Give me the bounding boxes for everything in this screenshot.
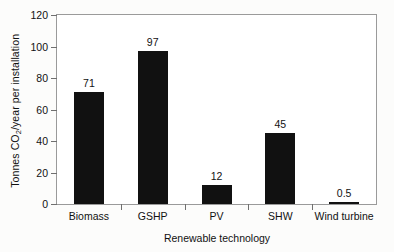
- bar-value-label: 12: [211, 170, 223, 182]
- x-axis-category-label: GSHP: [138, 210, 168, 222]
- x-axis-category-label: PV: [209, 210, 223, 222]
- y-axis-title-tail: /year per installation: [9, 34, 21, 130]
- y-axis-tick-label: 120: [30, 9, 48, 21]
- y-axis-title: Tonnes CO2/year per installation: [9, 11, 23, 211]
- bar: [202, 185, 232, 204]
- bar-chart-figure: Tonnes CO2/year per installation 0204060…: [0, 0, 394, 252]
- y-axis-title-main: Tonnes CO: [9, 134, 21, 187]
- y-axis-tick-label: 80: [36, 72, 48, 84]
- bar-value-label: 71: [83, 77, 95, 89]
- x-axis-tick: [248, 204, 249, 210]
- y-axis-tick: [51, 141, 57, 142]
- bar-value-label: 0.5: [337, 187, 352, 199]
- plot-area: 020406080100120719712450.5: [56, 14, 377, 205]
- bar-value-label: 97: [147, 36, 159, 48]
- x-axis-tick: [185, 204, 186, 210]
- x-axis-category-label: Biomass: [69, 210, 109, 222]
- x-axis-tick: [121, 204, 122, 210]
- y-axis-tick-label: 0: [42, 198, 48, 210]
- x-axis-category-label: SHW: [268, 210, 293, 222]
- y-axis-tick-label: 40: [36, 135, 48, 147]
- x-axis-tick: [312, 204, 313, 210]
- y-axis-title-subscript: 2: [14, 130, 23, 134]
- y-axis-tick-label: 60: [36, 104, 48, 116]
- y-axis-tick: [51, 15, 57, 16]
- y-axis-tick-label: 20: [36, 167, 48, 179]
- x-axis-category-label: Wind turbine: [315, 210, 374, 222]
- y-axis-tick: [51, 110, 57, 111]
- bar: [138, 51, 168, 204]
- y-axis-tick: [51, 173, 57, 174]
- bar: [329, 202, 359, 204]
- x-axis-title: Renewable technology: [56, 232, 378, 244]
- bar: [265, 133, 295, 204]
- y-axis-tick: [51, 47, 57, 48]
- bar-value-label: 45: [274, 118, 286, 130]
- y-axis-tick: [51, 204, 57, 205]
- y-axis-tick: [51, 78, 57, 79]
- bar: [74, 92, 104, 204]
- y-axis-tick-label: 100: [30, 41, 48, 53]
